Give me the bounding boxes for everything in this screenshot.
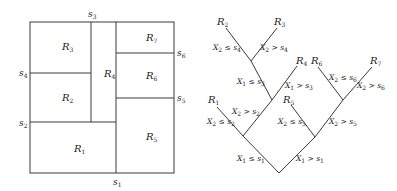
leaf-label-r4: R4	[295, 55, 308, 67]
edge-condition-label: X2 ≤ s6	[328, 73, 357, 83]
split-label-s4: s4	[19, 68, 28, 79]
split-label-s2: s2	[19, 118, 28, 129]
edge-condition-label: X2 ≤ s5	[277, 117, 306, 127]
edge-condition-label: X2 > s5	[328, 117, 357, 127]
leaf-label-r6: R6	[310, 55, 323, 67]
edge-condition-label: X2 ≤ s4	[212, 43, 241, 53]
edge-condition-label: X2 > s2	[231, 107, 260, 117]
edge-condition-label: X1 ≤ s3	[236, 77, 265, 87]
edge-condition-label: X1 > s1	[295, 154, 324, 164]
leaf-label-r5: R5	[282, 94, 295, 106]
split-label-s6: s6	[177, 48, 186, 59]
region-label-r2: R2	[61, 92, 74, 104]
split-label-s1: s1	[113, 177, 121, 188]
leaf-label-r7: R7	[369, 55, 382, 67]
split-label-s3: s3	[88, 9, 97, 20]
decision-tree: R1R2R3R4R5R6R7 X1 ≤ s1X1 > s1X2 ≤ s2X2 >…	[206, 16, 385, 173]
edge-condition-label: X2 > s6	[356, 81, 385, 91]
tree-edge	[318, 67, 343, 100]
edge-condition-label: X1 > s3	[284, 81, 313, 91]
edge-condition-label: X2 > s4	[259, 43, 288, 53]
recursive-partition-figure: R1R2R3R4R5R6R7 s1s2s3s4s5s6 R1R2R3R4R5R6…	[0, 0, 397, 191]
leaf-label-r2: R2	[216, 16, 229, 28]
split-label-s5: s5	[177, 93, 186, 104]
leaf-label-r1: R1	[207, 94, 219, 106]
region-labels: R1R2R3R4R5R6R7	[61, 32, 158, 155]
leaf-label-r3: R3	[273, 16, 286, 28]
leaf-labels: R1R2R3R4R5R6R7	[207, 16, 382, 106]
partition-diagram: R1R2R3R4R5R6R7 s1s2s3s4s5s6	[19, 9, 186, 188]
region-label-r7: R7	[145, 32, 158, 44]
edge-condition-label: X2 ≤ s2	[206, 117, 235, 127]
edge-condition-label: X1 ≤ s1	[236, 154, 265, 164]
region-label-r5: R5	[145, 131, 158, 143]
region-label-r3: R3	[61, 41, 74, 53]
tree-edge	[243, 100, 272, 136]
region-label-r1: R1	[73, 143, 85, 155]
region-label-r6: R6	[145, 70, 158, 82]
region-label-r4: R4	[103, 68, 116, 80]
